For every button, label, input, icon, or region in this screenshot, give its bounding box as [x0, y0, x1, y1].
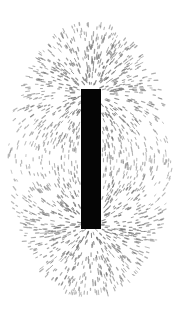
- bar-magnet: [81, 89, 101, 229]
- magnetic-field-illustration: [0, 0, 177, 315]
